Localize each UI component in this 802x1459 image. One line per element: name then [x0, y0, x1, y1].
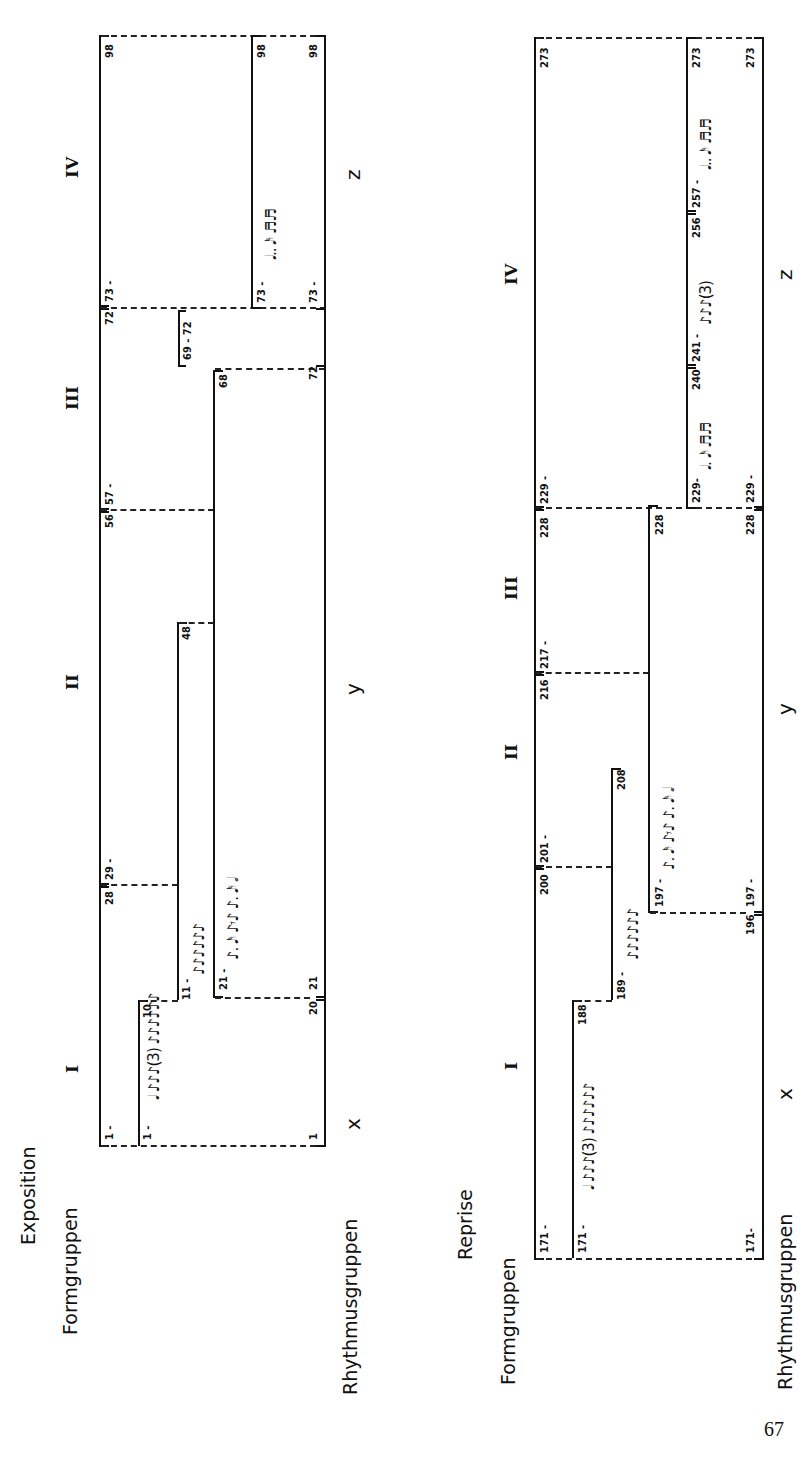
- rhythm-notation: ♪♪♪♪♪♪: [624, 909, 642, 960]
- section-title-exposition: Exposition: [18, 1146, 38, 1245]
- bracket-tick: [251, 307, 261, 309]
- rhythm-notation: 𝅘𝅥 ♪♪♪(3) ♪♪♪♪♪♪: [145, 993, 163, 1100]
- measure-label: 21: [308, 976, 319, 990]
- rhythm-letter-y: y: [775, 703, 795, 715]
- measure-label: 197 -: [654, 879, 665, 907]
- rhythm-group-line: [648, 505, 650, 913]
- rhythm-group-line: [138, 1000, 140, 1146]
- rhythm-letter-x: x: [343, 1118, 363, 1130]
- measure-label: 171-: [745, 1228, 756, 1253]
- measure-label: 229 -: [539, 476, 550, 504]
- page-number: 67: [764, 1418, 784, 1441]
- rhythm-notation: 𝅘𝅥 ♪♪♪(3) ♪♪♪♪♪♪: [580, 1083, 598, 1190]
- measure-label: 200: [539, 874, 550, 895]
- rhythm-letter-y: y: [343, 683, 363, 695]
- bracket-tick: [178, 365, 186, 367]
- measure-label: 21 -: [218, 969, 229, 990]
- connector-dash: [101, 1145, 326, 1147]
- rhythm-group-line: [611, 768, 613, 1000]
- measure-label: 98: [256, 44, 267, 58]
- form-section-I: I: [64, 1065, 81, 1073]
- rhythm-notation: ♪♪♪(3): [697, 281, 715, 325]
- measure-label: 217 -: [539, 641, 550, 669]
- measure-label: 228: [539, 517, 550, 538]
- rhythm-group-line: [572, 1000, 574, 1258]
- measure-label: 256: [691, 217, 702, 238]
- formgruppen-label: Formgruppen: [498, 1257, 518, 1385]
- connector-dash: [179, 622, 214, 624]
- measure-label: 72: [308, 366, 319, 380]
- rhythmusgruppen-label: Rhythmusgruppen: [340, 1219, 360, 1395]
- form-section-II: II: [64, 674, 81, 690]
- formgroup-line: [99, 35, 101, 1147]
- form-section-IV: IV: [503, 264, 520, 285]
- bracket-tick: [316, 308, 326, 310]
- measure-label: 171 -: [577, 1225, 588, 1253]
- measure-label: 273: [691, 47, 702, 68]
- connector-dash: [536, 866, 612, 868]
- connector-dash: [650, 912, 746, 914]
- measure-label: 229 -: [745, 475, 756, 503]
- bracket-tick: [648, 505, 658, 507]
- bracket-tick: [754, 506, 764, 508]
- measure-label: 73 -: [104, 281, 115, 302]
- measure-label: 273: [745, 47, 756, 68]
- bracket-tick: [251, 35, 261, 37]
- bracket-tick: [99, 511, 109, 513]
- rhythm-group-line: [177, 622, 179, 1000]
- connector-dash: [574, 1000, 612, 1002]
- bracket-tick: [754, 37, 764, 39]
- bracket-tick: [99, 886, 109, 888]
- measure-label: 69 - 72: [182, 321, 193, 360]
- measure-label: 196: [745, 914, 756, 935]
- measure-label: 197 -: [745, 879, 756, 907]
- measure-label: 208: [616, 769, 627, 790]
- rhythm-group-line: [686, 37, 688, 509]
- rhythm-group-line: [178, 310, 180, 365]
- measure-label: 73 -: [256, 282, 267, 303]
- measure-label: 216: [539, 679, 550, 700]
- bracket-tick: [213, 370, 223, 372]
- measure-label: 11 -: [181, 979, 192, 1000]
- rhythm-letter-z: z: [343, 170, 363, 181]
- bracket-tick: [316, 35, 326, 37]
- rhythm-notation: 𝅘𝅥.. 𝅘𝅥𝅯 ♬♬: [697, 119, 715, 170]
- rhythm-notation: ♪. 𝅘𝅥𝅯 ♪𝄾♪ ♪. 𝅘𝅥𝅯 𝅗𝅥: [224, 878, 242, 960]
- bracket-tick: [534, 674, 544, 676]
- bracket-tick: [178, 310, 186, 312]
- connector-dash: [101, 509, 214, 511]
- bracket-tick: [686, 210, 696, 212]
- rhythm-notation: 𝅘𝅥.. 𝅘𝅥𝅯 ♬♬: [262, 209, 280, 260]
- rhythm-notation: ♪. 𝅘𝅥𝅯 ♪𝄾♪ ♪. 𝅘𝅥𝅯 𝅗𝅥: [660, 788, 678, 870]
- measure-label: 98: [308, 44, 319, 58]
- measure-label: 228: [654, 514, 665, 535]
- section-title-reprise: Reprise: [455, 1189, 475, 1260]
- connector-dash: [101, 884, 178, 886]
- bracket-tick: [686, 213, 696, 215]
- measure-label: 73 -: [308, 282, 319, 303]
- bracket-tick: [316, 996, 326, 998]
- measure-label: 273: [539, 47, 550, 68]
- measure-label: 98: [104, 44, 115, 58]
- rhythmgroup-line: [762, 37, 764, 1260]
- connector-dash: [101, 35, 326, 37]
- bracket-tick: [686, 364, 696, 366]
- rhythm-notation: ♪♪♪♪♪♪: [190, 924, 208, 975]
- bracket-tick: [686, 37, 696, 39]
- measure-label: 1 -: [142, 1126, 153, 1140]
- measure-label: 29 -: [104, 859, 115, 880]
- measure-label: 57 -: [104, 484, 115, 505]
- measure-label: 1: [308, 1133, 319, 1140]
- connector-dash: [536, 37, 762, 39]
- form-section-I: I: [503, 1062, 520, 1070]
- measure-label: 188: [577, 1004, 588, 1025]
- measure-label: 28: [104, 891, 115, 905]
- bracket-tick: [316, 1145, 326, 1147]
- measure-label: 240: [691, 369, 702, 390]
- measure-label: 48: [181, 626, 192, 640]
- measure-label: 257 -: [691, 180, 702, 208]
- rhythm-letter-z: z: [775, 270, 795, 281]
- bracket-tick: [754, 1258, 764, 1260]
- measure-label: 72: [104, 311, 115, 325]
- rhythmusgruppen-label: Rhythmusgruppen: [775, 1214, 795, 1390]
